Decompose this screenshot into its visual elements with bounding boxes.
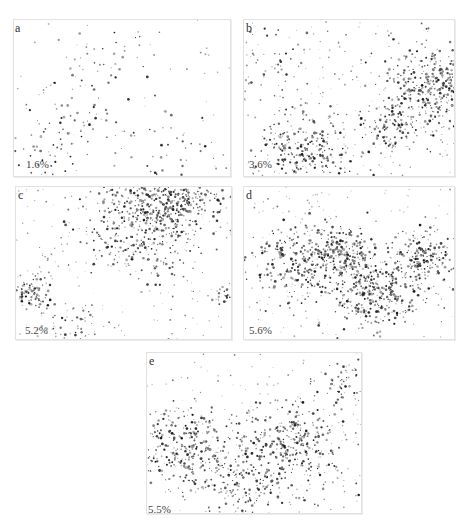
micrograph-panel-b: b3.6% [243, 19, 455, 177]
panel-label: e [149, 355, 154, 367]
speckle-image [244, 20, 454, 176]
speckle-image [14, 20, 230, 176]
speckle-image [147, 353, 361, 513]
speckle-image [244, 187, 454, 339]
micrograph-panel-e: e5.5% [146, 352, 362, 514]
area-percentage-label: 5.2% [25, 325, 48, 336]
micrograph-panel-d: d5.6% [243, 186, 455, 340]
area-percentage-label: 5.6% [249, 325, 272, 336]
area-percentage-label: 3.6% [249, 159, 272, 170]
panel-label: b [246, 22, 252, 34]
panel-label: a [15, 22, 20, 34]
cropped-caption-line [140, 508, 360, 512]
micrograph-panel-a: a1.6% [13, 19, 231, 177]
micrograph-panel-c: c5.2% [15, 186, 232, 340]
panel-label: d [246, 189, 252, 201]
area-percentage-label: 1.6% [26, 159, 49, 170]
speckle-image [16, 187, 231, 339]
panel-label: c [18, 189, 23, 201]
